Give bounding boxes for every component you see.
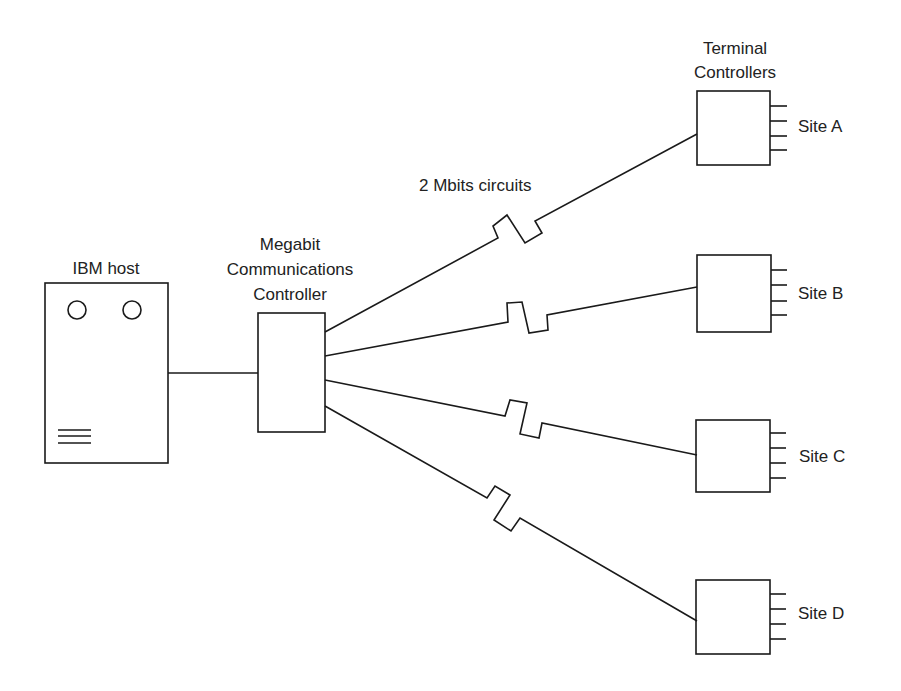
ibm-host-label: IBM host <box>72 259 139 279</box>
circuit-label: 2 Mbits circuits <box>419 176 531 196</box>
network-diagram <box>0 0 901 691</box>
terminal-controllers-label-line-1: Terminal <box>703 39 767 59</box>
megabit-controller-box <box>258 313 325 432</box>
site-d-label: Site D <box>798 604 844 624</box>
controller-label-line-1: Megabit <box>260 235 320 255</box>
terminal-controller-site-d <box>696 580 786 654</box>
circuit-line-site-d <box>325 406 697 621</box>
terminal-controllers-label-line-2: Controllers <box>694 63 776 83</box>
host-indicator-light-icon <box>68 301 86 319</box>
circuit-line-site-c <box>325 380 697 455</box>
controller-label-line-2: Communications <box>227 260 354 280</box>
site-a-label: Site A <box>798 117 842 137</box>
controller-label-line-3: Controller <box>253 285 327 305</box>
host-vent-icon <box>58 430 91 443</box>
host-indicator-light-icon <box>123 301 141 319</box>
terminal-controller-site-c <box>696 420 786 492</box>
site-c-label: Site C <box>799 447 845 467</box>
terminal-controller-site-a <box>697 91 787 165</box>
terminal-controller-site-b <box>697 255 787 332</box>
site-b-label: Site B <box>798 284 843 304</box>
circuit-line-site-b <box>325 287 697 356</box>
